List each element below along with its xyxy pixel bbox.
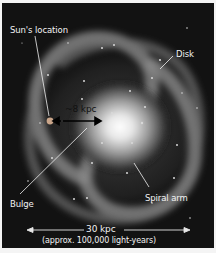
- sun-distance-label: ~8 kpc: [65, 104, 96, 114]
- bulge-label: Bulge: [10, 199, 34, 209]
- bulge: [68, 79, 172, 175]
- spiral-arm-label: Spiral arm: [145, 193, 188, 203]
- diameter-label: 30 kpc: [86, 224, 116, 234]
- disk-label: Disk: [176, 49, 194, 59]
- galaxy-illustration: [2, 3, 214, 248]
- galaxy-diagram: Sun's location Disk Bulge Spiral arm ~8 …: [2, 3, 214, 248]
- sun-location-label: Sun's location: [10, 25, 68, 35]
- diameter-note: (approx. 100,000 light-years): [42, 236, 156, 245]
